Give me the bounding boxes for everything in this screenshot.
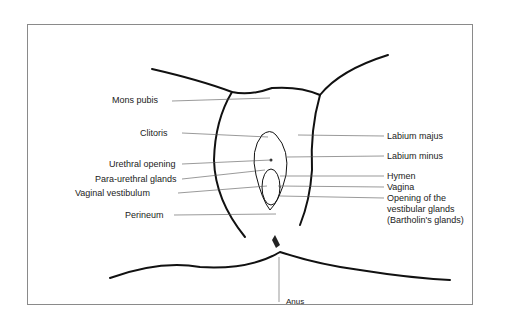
label-labium-majus: Labium majus — [387, 131, 443, 141]
label-vestibular-glands-line1: Opening of the — [387, 193, 446, 203]
label-urethral-opening: Urethral opening — [109, 159, 176, 169]
label-vestibular-glands-line2: vestibular glands — [387, 204, 455, 214]
label-clitoris: Clitoris — [140, 128, 168, 138]
label-hymen: Hymen — [387, 171, 416, 181]
label-para-urethral-glands: Para-urethral glands — [95, 174, 177, 184]
label-vestibular-glands-line3: (Bartholin's glands) — [387, 215, 464, 225]
label-labium-minus: Labium minus — [387, 151, 443, 161]
label-anus: Anus — [286, 297, 304, 307]
anatomical-outline — [0, 0, 512, 331]
label-vagina: Vagina — [387, 182, 414, 192]
label-perineum: Perineum — [125, 210, 164, 220]
label-mons-pubis: Mons pubis — [112, 95, 158, 105]
label-vaginal-vestibulum: Vaginal vestibulum — [75, 188, 150, 198]
